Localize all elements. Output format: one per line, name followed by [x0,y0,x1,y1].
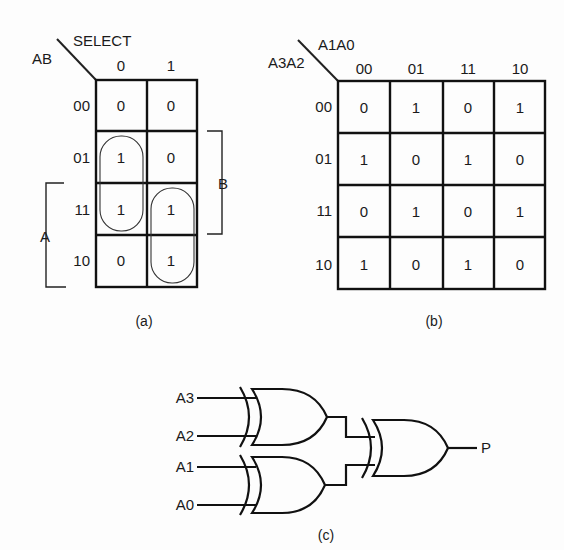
kmap-b-cell: 0 [412,151,420,168]
kmap-b-cell: 1 [412,99,420,116]
kmap-b-row-header: 01 [315,150,332,167]
kmap-a-cell: 0 [117,252,125,269]
kmap-b-row-header: 10 [315,256,332,273]
input-label: A1 [176,458,194,475]
kmap-a-cell: 1 [117,149,125,166]
kmap-b-cell: 1 [516,203,524,220]
input-label: A0 [176,496,194,513]
kmap-a-cell: 1 [167,252,175,269]
caption-c: (c) [318,527,334,543]
kmap-b-cell: 0 [360,99,368,116]
kmap-a-col-header: 0 [117,57,125,74]
kmap-b-col-header: 11 [460,60,476,77]
xor-circuit: A3 A2 A1 A0 P (c) [176,387,491,543]
kmap-b-cell: 1 [464,151,472,168]
kmap-a-col-header: 1 [167,57,175,74]
kmap-a-row-header: 11 [74,201,90,218]
kmap-b-cell: 1 [360,151,368,168]
bracket-a-label: A [40,228,50,245]
kmap-b-cell: 0 [516,256,524,273]
kmap-b-col-header: 10 [512,60,529,77]
kmap-a-row-header: 01 [73,149,90,166]
kmap-b-cell: 0 [464,203,472,220]
kmap-b-cell: 1 [516,99,524,116]
bracket-b-label: B [218,175,228,192]
kmap-b-cell: 0 [516,151,524,168]
kmap-b-cell: 0 [360,203,368,220]
kmap-b-cell: 0 [412,256,420,273]
gate1-to-gate3-wire [327,417,375,437]
kmap-a-cell: 0 [167,149,175,166]
kmap-b-row-var-label: A3A2 [268,54,305,71]
xor-gate-1 [240,387,327,447]
kmap-a-cell: 0 [117,97,125,114]
kmap-b-cell: 1 [464,256,472,273]
kmap-a-row-header: 00 [73,97,90,114]
figure-canvas: SELECT AB 0 1 00 01 11 10 0 0 1 0 1 1 0 … [0,0,564,550]
caption-a: (a) [135,313,152,329]
input-label: A3 [176,389,194,406]
kmap-a-cell: 1 [167,201,175,218]
kmap-a: SELECT AB 0 1 00 01 11 10 0 0 1 0 1 1 0 … [32,32,228,329]
kmap-a-row-header: 10 [73,252,90,269]
output-label: P [481,439,491,456]
kmap-b-row-header: 11 [316,202,332,219]
kmap-a-row-var-label: AB [32,50,52,67]
kmap-a-cell: 0 [167,97,175,114]
kmap-a-cell: 1 [117,201,125,218]
kmap-b-cell: 0 [464,99,472,116]
kmap-a-col-var-label: SELECT [73,32,131,49]
kmap-b-cell: 1 [412,203,420,220]
kmap-b-cell: 1 [360,256,368,273]
caption-b: (b) [425,313,442,329]
kmap-b-col-header: 01 [408,60,425,77]
kmap-b-col-header: 00 [356,60,373,77]
kmap-b: A1A0 A3A2 00 01 11 10 00 01 11 10 0 1 0 … [268,36,545,329]
kmap-b-col-var-label: A1A0 [318,36,355,53]
kmap-b-row-header: 00 [315,98,332,115]
xor-gate-3 [362,418,448,478]
input-label: A2 [176,427,194,444]
